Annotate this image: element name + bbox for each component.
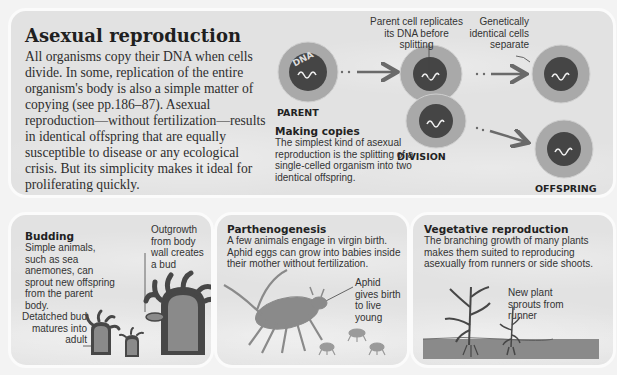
small-bud-anemone-icon (120, 328, 143, 357)
making-copies-body: The simplest kind of asexual reproductio… (275, 137, 415, 183)
adult-anemone-icon (146, 273, 214, 355)
parent-label: PARENT (277, 107, 319, 118)
vegetative-reproduction-panel: Vegetative reproduction The branching gr… (410, 212, 616, 368)
dividing-cell-bottom-icon (406, 94, 466, 148)
making-copies-title: Making copies (275, 125, 415, 137)
offspring-cell-top-icon (532, 45, 590, 103)
parthenogenesis-panel: Parthenogenesis A few animals engage in … (214, 212, 410, 368)
callout-separate: Genetically identical cells separate (461, 16, 529, 51)
making-copies-section: Making copies The simplest kind of asexu… (275, 125, 415, 183)
arrow-to-offspring-top-icon (476, 73, 524, 75)
adult-aphid-icon (224, 270, 327, 353)
offspring-label: OFFSPRING (535, 183, 596, 194)
young-aphid-icon (319, 329, 385, 355)
arrow-to-division-icon (341, 71, 395, 73)
arrow-to-offspring-bottom-icon (476, 127, 526, 142)
callout-replicates: Parent cell replicates its DNA before sp… (369, 16, 464, 51)
plant-runner-illustration (413, 215, 616, 368)
callout-line (516, 56, 530, 62)
budding-panel: Budding Simple animals, such as sea anem… (8, 212, 214, 368)
offspring-cell-bottom-icon (535, 120, 593, 178)
asexual-reproduction-panel: Asexual reproduction All organisms copy … (8, 8, 616, 198)
detached-bud-anemone-icon (87, 311, 119, 355)
sea-anemone-illustration (11, 215, 214, 368)
aphid-illustration (217, 215, 410, 368)
